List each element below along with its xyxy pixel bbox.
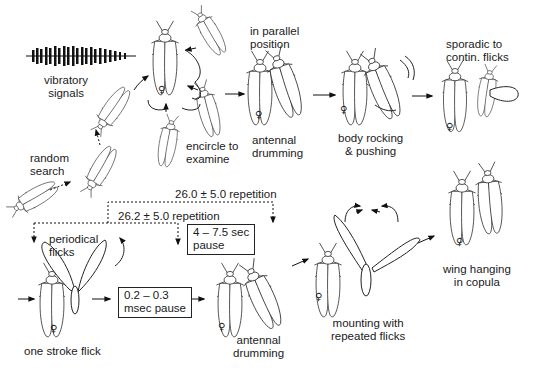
svg-text:♀: ♀	[50, 323, 57, 334]
box-short-pause: 0.2 – 0.3 msec pause	[118, 287, 192, 318]
label-mounting: mounting with repeated flicks	[331, 317, 405, 343]
insect-pair-antennal-bottom: ♀	[216, 256, 287, 337]
svg-text:♀: ♀	[446, 121, 453, 132]
insect-approach-1	[77, 143, 121, 200]
svg-text:♀: ♀	[456, 236, 463, 247]
label-vibratory-signals: vibratory signals	[44, 74, 88, 100]
approach-arrow-2	[96, 130, 100, 145]
svg-text:♀: ♀	[218, 321, 225, 332]
label-periodical: periodical flicks	[49, 233, 98, 259]
insect-approach-2	[88, 83, 135, 139]
label-antennal-top: antennal drumming	[252, 134, 303, 160]
svg-text:♀: ♀	[315, 291, 322, 302]
label-random-search: random search	[30, 152, 69, 178]
female-symbol: ♀	[158, 84, 165, 95]
label-sporadic: sporadic to contin. flicks	[446, 38, 509, 64]
label-wing-hanging: wing hanging in copula	[443, 263, 511, 289]
insect-pair-sporadic: ♀	[442, 60, 518, 132]
svg-text:♀: ♀	[340, 104, 347, 115]
box-long-pause: 4 – 7.5 sec pause	[187, 224, 255, 255]
insect-random-search	[4, 177, 61, 221]
svg-text:♀: ♀	[255, 109, 262, 120]
label-one-stroke: one stroke flick	[24, 345, 101, 358]
arrow-to-mounting	[292, 259, 308, 266]
arrow-to-copula	[418, 236, 434, 243]
label-encircle: encircle to examine	[186, 140, 238, 166]
insect-pair-mounting: ♀	[314, 206, 420, 317]
vibratory-waveform	[26, 46, 136, 66]
label-repetition-outer: 26.0 ± 5.0 repetition	[175, 188, 277, 201]
label-repetition-inner: 26.2 ± 5.0 repetition	[118, 210, 220, 223]
approach-arrow-3	[134, 76, 148, 90]
label-rocking: body rocking & pushing	[338, 132, 403, 158]
insect-pair-parallel: ♀	[246, 44, 307, 125]
label-parallel: in parallel position	[250, 25, 299, 51]
insect-pair-copula: ♀	[448, 161, 506, 247]
insect-pair-rocking: ♀	[340, 46, 414, 125]
label-antennal-bottom: antennal drumming	[233, 334, 284, 360]
